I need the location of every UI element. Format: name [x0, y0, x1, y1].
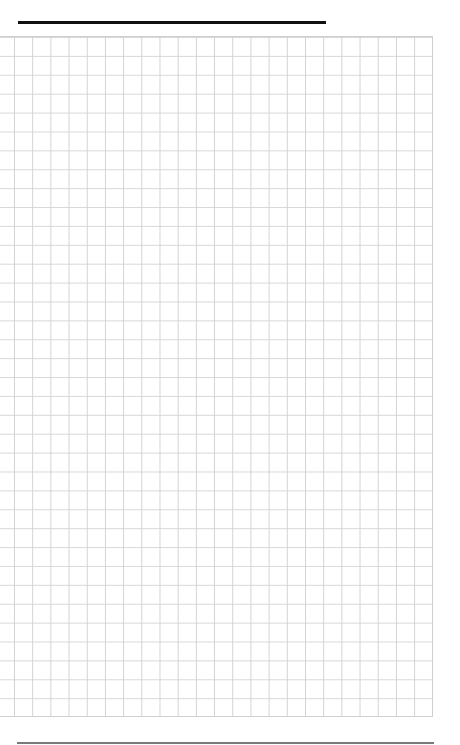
footer-rule — [17, 742, 434, 744]
graph-paper-grid — [0, 36, 433, 717]
title-rule — [18, 21, 326, 24]
